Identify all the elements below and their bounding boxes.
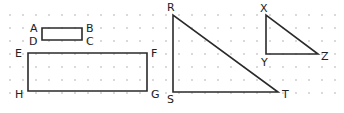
grid-dot bbox=[113, 27, 115, 29]
vertex-label-h: H bbox=[15, 88, 23, 101]
grid-dot bbox=[152, 40, 154, 42]
grid-dot bbox=[191, 66, 193, 68]
grid-dot bbox=[165, 14, 167, 16]
grid-dot bbox=[243, 40, 245, 42]
grid-dot bbox=[9, 14, 11, 16]
grid-dot bbox=[256, 79, 258, 81]
grid-dot bbox=[308, 27, 310, 29]
grid-dot bbox=[230, 66, 232, 68]
grid-dot bbox=[321, 40, 323, 42]
grid-dot bbox=[282, 66, 284, 68]
grid-dot bbox=[334, 53, 336, 55]
grid-dot bbox=[204, 79, 206, 81]
vertex-label-c: C bbox=[86, 35, 94, 48]
grid-dot bbox=[334, 66, 336, 68]
grid-dot bbox=[282, 79, 284, 81]
grid-dot bbox=[165, 79, 167, 81]
grid-dot bbox=[321, 14, 323, 16]
grid-dot bbox=[178, 14, 180, 16]
grid-dot bbox=[100, 27, 102, 29]
grid-dot bbox=[282, 40, 284, 42]
grid-dot bbox=[126, 27, 128, 29]
grid-dot bbox=[113, 66, 115, 68]
grid-dot bbox=[178, 40, 180, 42]
grid-dot bbox=[35, 66, 37, 68]
grid-dot bbox=[139, 40, 141, 42]
grid-dot bbox=[204, 27, 206, 29]
grid-dot bbox=[191, 79, 193, 81]
grid-dot bbox=[87, 66, 89, 68]
grid-dot bbox=[269, 79, 271, 81]
grid-dot bbox=[334, 27, 336, 29]
grid-dot bbox=[243, 27, 245, 29]
grid-dot bbox=[256, 66, 258, 68]
grid-dot bbox=[334, 40, 336, 42]
vertex-label-r: R bbox=[167, 1, 175, 14]
grid-dot bbox=[139, 79, 141, 81]
grid-dot bbox=[48, 14, 50, 16]
grid-dot bbox=[191, 14, 193, 16]
grid-dot bbox=[87, 14, 89, 16]
grid-dot bbox=[74, 66, 76, 68]
vertex-label-t: T bbox=[281, 88, 289, 101]
grid-dot bbox=[87, 92, 89, 94]
grid-dot bbox=[100, 92, 102, 94]
rect-ABCD bbox=[42, 28, 82, 40]
grid-dot bbox=[334, 92, 336, 94]
grid-dot bbox=[165, 66, 167, 68]
grid-dot bbox=[230, 27, 232, 29]
grid-dot bbox=[295, 14, 297, 16]
grid-dot bbox=[269, 14, 271, 16]
grid-dot bbox=[334, 14, 336, 16]
grid-dot bbox=[217, 79, 219, 81]
tri-RST bbox=[173, 15, 278, 92]
grid-dot bbox=[152, 79, 154, 81]
grid-dot bbox=[61, 66, 63, 68]
grid-dot bbox=[74, 79, 76, 81]
grid-dot bbox=[217, 27, 219, 29]
vertex-label-z: Z bbox=[321, 50, 329, 63]
grid-dot bbox=[321, 27, 323, 29]
shapes bbox=[28, 15, 318, 92]
geometry-figure: ABCDEFGHRSTXYZ bbox=[0, 0, 344, 113]
vertex-label-e: E bbox=[15, 47, 22, 60]
dot-grid-diagram: ABCDEFGHRSTXYZ bbox=[0, 0, 344, 113]
vertex-label-y: Y bbox=[260, 56, 268, 69]
vertex-label-d: D bbox=[29, 35, 37, 48]
grid-dot bbox=[178, 66, 180, 68]
grid-dot bbox=[22, 27, 24, 29]
grid-dot bbox=[87, 79, 89, 81]
grid-dot bbox=[9, 40, 11, 42]
grid-dot bbox=[178, 79, 180, 81]
grid-dot bbox=[35, 14, 37, 16]
tri-XYZ bbox=[266, 15, 318, 54]
grid-dot bbox=[113, 40, 115, 42]
grid-dot bbox=[74, 92, 76, 94]
grid-dot bbox=[35, 79, 37, 81]
grid-dot bbox=[230, 53, 232, 55]
grid-dot bbox=[321, 79, 323, 81]
grid-dot bbox=[243, 53, 245, 55]
grid-dot bbox=[100, 14, 102, 16]
grid-dot bbox=[100, 66, 102, 68]
grid-dot bbox=[243, 79, 245, 81]
grid-dot bbox=[126, 40, 128, 42]
grid-dot bbox=[113, 92, 115, 94]
vertex-label-a: A bbox=[30, 22, 38, 35]
rect-EFGH bbox=[28, 53, 147, 91]
grid-dot bbox=[256, 53, 258, 55]
grid-dot bbox=[217, 40, 219, 42]
grid-dot bbox=[334, 79, 336, 81]
grid-dot bbox=[139, 27, 141, 29]
grid-dot bbox=[22, 53, 24, 55]
grid-dot bbox=[139, 14, 141, 16]
grid-dot bbox=[191, 40, 193, 42]
grid-dot bbox=[230, 40, 232, 42]
grid-dot bbox=[152, 14, 154, 16]
grid-dot bbox=[256, 14, 258, 16]
grid-dot bbox=[243, 14, 245, 16]
grid-dot bbox=[204, 66, 206, 68]
grid-dot bbox=[256, 40, 258, 42]
grid-dot bbox=[22, 66, 24, 68]
grid-dot bbox=[152, 27, 154, 29]
